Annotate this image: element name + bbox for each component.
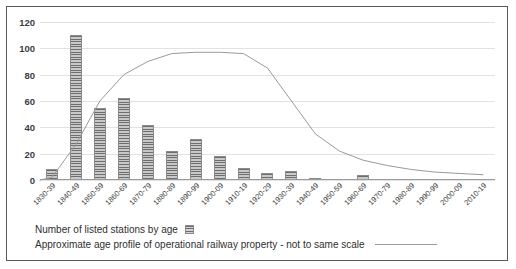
y-axis-tick-label: 80: [24, 69, 35, 80]
x-axis-tick-label: 2010-19: [462, 181, 488, 207]
x-axis-tick-label: 1880-89: [151, 181, 177, 207]
x-axis-tick-label: 1890-99: [175, 181, 201, 207]
legend-label-line: Approximate age profile of operational r…: [35, 239, 365, 250]
x-axis-line: [40, 179, 495, 180]
x-axis-tick-label: 1990-99: [414, 181, 440, 207]
x-axis-tick-label: 1910-19: [223, 181, 249, 207]
age-profile-line: [40, 52, 483, 180]
x-axis-tick-label: 1930-39: [271, 181, 297, 207]
striped-square-icon: [185, 225, 194, 234]
x-axis-tick-label: 1860-69: [103, 181, 129, 207]
chart-legend: Number of listed stations by age Approxi…: [35, 222, 485, 252]
chart-figure: 020406080100120 1830-391840-491850-59186…: [6, 6, 508, 261]
x-axis-tick-label: 1960-69: [343, 181, 369, 207]
x-axis-tick-label: 1920-29: [247, 181, 273, 207]
x-axis-tick-label: 2000-09: [438, 181, 464, 207]
legend-item-line: Approximate age profile of operational r…: [35, 237, 485, 252]
legend-label-bars: Number of listed stations by age: [35, 224, 178, 235]
y-axis-tick-label: 0: [30, 175, 35, 186]
x-axis-tick-label: 1980-89: [390, 181, 416, 207]
x-axis-tick-label: 1840-49: [55, 181, 81, 207]
y-axis-tick-label: 100: [19, 43, 35, 54]
x-axis-tick-label: 1830-39: [31, 181, 57, 207]
x-axis-tick-label: 1950-59: [319, 181, 345, 207]
x-axis-tick-label: 1900-09: [199, 181, 225, 207]
y-axis-tick-label: 40: [24, 122, 35, 133]
x-axis-tick-label: 1970-79: [367, 181, 393, 207]
legend-item-bars: Number of listed stations by age: [35, 222, 485, 237]
horizontal-line-icon: [375, 244, 437, 245]
x-axis-tick-label: 1850-59: [79, 181, 105, 207]
x-axis-labels-group: 1830-391840-491850-591860-691870-791880-…: [40, 181, 495, 215]
y-axis-tick-label: 120: [19, 17, 35, 28]
line-series-group: [40, 22, 495, 180]
x-axis-tick-label: 1870-79: [127, 181, 153, 207]
y-axis-tick-label: 20: [24, 148, 35, 159]
y-axis-tick-label: 60: [24, 96, 35, 107]
plot-area: 020406080100120: [40, 22, 495, 180]
x-axis-tick-label: 1940-49: [295, 181, 321, 207]
